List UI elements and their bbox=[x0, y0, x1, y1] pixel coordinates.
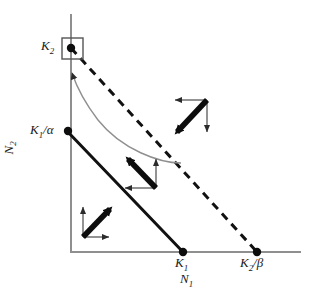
label-k2-over-beta-suffix: /β bbox=[253, 255, 263, 270]
y-axis-label-sub: 2 bbox=[8, 141, 18, 145]
thick-arrow-resultant-down-left bbox=[177, 100, 207, 132]
label-k1-over-alpha: K1/α bbox=[30, 123, 54, 139]
k2-intercept-point bbox=[67, 44, 75, 52]
y-axis-label: N2 bbox=[2, 141, 18, 154]
label-k1-base: K bbox=[175, 255, 184, 270]
vector-cluster-middle bbox=[125, 159, 156, 188]
vector-cluster-upper-right bbox=[175, 100, 207, 132]
thick-arrow-resultant-up-left bbox=[128, 159, 156, 188]
trajectory-group bbox=[72, 73, 181, 163]
label-k2-over-beta: K2/β bbox=[240, 256, 263, 272]
x-axis-label: N1 bbox=[180, 272, 193, 288]
label-k2: K2 bbox=[41, 39, 54, 55]
thick-arrow-resultant-up-right bbox=[83, 209, 110, 237]
curved-trajectory-arrow bbox=[72, 73, 181, 163]
x-axis-label-sub: 1 bbox=[189, 279, 193, 289]
label-k1-over-alpha-base: K bbox=[30, 122, 39, 137]
label-k2-over-beta-base: K bbox=[240, 255, 249, 270]
label-k2-sub: 2 bbox=[50, 46, 54, 56]
label-k1-over-alpha-suffix: /α bbox=[43, 122, 53, 137]
label-k1: K1 bbox=[175, 256, 188, 272]
x-axis-label-base: N bbox=[180, 271, 189, 286]
y-axis-label-base: N bbox=[1, 146, 16, 155]
k1-over-alpha-point bbox=[64, 127, 72, 135]
phase-plane-figure: K2 K1/α K1 K2/β N1 N2 bbox=[0, 0, 317, 298]
label-k2-base: K bbox=[41, 38, 50, 53]
vector-cluster-lower-left bbox=[83, 207, 110, 237]
